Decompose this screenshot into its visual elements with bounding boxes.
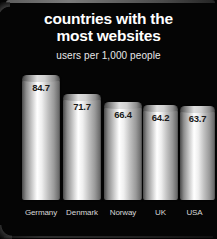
- bar-germany: 84.7: [22, 75, 60, 200]
- bar-usa: 63.7: [180, 106, 215, 200]
- axis-label-denmark-text: Denmark: [66, 208, 98, 217]
- bar-value-uk: 64.2: [143, 112, 178, 123]
- bar-denmark: 71.7: [63, 94, 101, 200]
- bar-value-usa: 63.7: [180, 113, 215, 124]
- bar-chart-plot-area: 84.7 Germany 71.7 Denmark 66.4 Norway 64…: [0, 0, 217, 239]
- bar-value-germany: 84.7: [22, 82, 60, 93]
- axis-label-usa-text: USA: [186, 208, 202, 217]
- bar-value-norway: 66.4: [104, 109, 142, 120]
- chart-card: countries with the most websites users p…: [0, 0, 217, 239]
- axis-label-usa: USA: [172, 208, 217, 217]
- bar-norway: 66.4: [104, 102, 142, 200]
- bar-value-denmark: 71.7: [63, 101, 101, 112]
- axis-label-germany-text: Germany: [25, 208, 57, 217]
- axis-label-uk-text: UK: [155, 208, 166, 217]
- axis-label-norway-text: Norway: [110, 208, 137, 217]
- bar-uk: 64.2: [143, 105, 178, 200]
